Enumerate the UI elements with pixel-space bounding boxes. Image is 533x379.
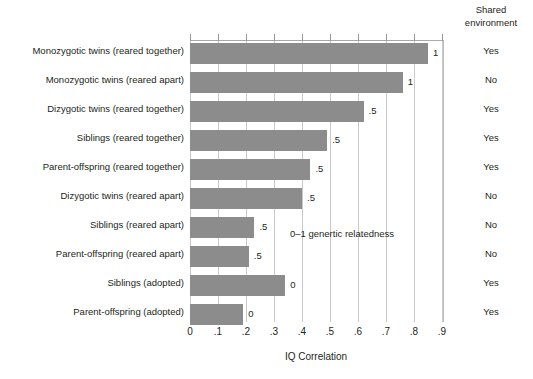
x-axis-tick-label: .6 — [343, 326, 373, 337]
bar-value-label: 1 — [433, 47, 438, 59]
plot-area: 0 .1 .2 .3 .4 .5 .6 .7 .8 .9 1 1 .5 .5 .… — [190, 41, 442, 322]
shared-environment-header-line2: environment — [452, 17, 530, 30]
x-axis-tick-label: .8 — [399, 326, 429, 337]
category-label: Siblings (adopted) — [4, 277, 190, 289]
axis-tick — [414, 34, 415, 41]
x-axis-tick-label: 0 — [175, 326, 205, 337]
x-axis-tick-label: .2 — [231, 326, 261, 337]
shared-environment-value: Yes — [452, 132, 530, 143]
bar-value-label: 1 — [408, 76, 413, 88]
shared-environment-divider — [443, 40, 444, 322]
shared-environment-header: Shared environment — [452, 4, 530, 29]
axis-tick — [302, 34, 303, 41]
bar — [190, 217, 254, 238]
axis-tick — [442, 34, 443, 41]
shared-environment-header-line1: Shared — [452, 4, 530, 17]
axis-tick — [358, 34, 359, 41]
x-axis-tick-label: .1 — [203, 326, 233, 337]
x-axis-tick-label: .9 — [427, 326, 457, 337]
category-label: Monozygotic twins (reared apart) — [4, 74, 190, 86]
shared-environment-value: No — [452, 74, 530, 85]
bar — [190, 43, 428, 64]
category-label: Siblings (reared apart) — [4, 219, 190, 231]
axis-tick — [246, 34, 247, 41]
iq-correlation-bar-chart: Shared environment Monozygotic twins (re… — [0, 0, 533, 379]
category-label-column: Monozygotic twins (reared together) Mono… — [0, 41, 190, 322]
x-axis-tick-label: .7 — [371, 326, 401, 337]
bar — [190, 246, 249, 267]
category-label: Parent-offspring (reared together) — [4, 161, 190, 173]
shared-environment-value: Yes — [452, 45, 530, 56]
shared-environment-value: Yes — [452, 277, 530, 288]
bar-value-label: .5 — [315, 163, 323, 175]
bar — [190, 275, 285, 296]
bar-value-label: .5 — [307, 192, 315, 204]
axis-tick — [274, 34, 275, 41]
bar — [190, 101, 364, 122]
shared-environment-value: No — [452, 248, 530, 259]
category-label: Siblings (reared together) — [4, 132, 190, 144]
x-axis-title: IQ Correlation — [190, 351, 442, 362]
shared-environment-value: No — [452, 219, 530, 230]
category-label: Monozygotic twins (reared together) — [4, 45, 190, 57]
bar — [190, 188, 302, 209]
axis-tick — [386, 34, 387, 41]
genetic-relatedness-annotation: 0–1 genertic relatedness — [290, 228, 394, 239]
x-axis-tick-label: .5 — [315, 326, 345, 337]
axis-tick — [330, 34, 331, 41]
gridline — [414, 41, 415, 322]
x-axis-tick-label: .4 — [287, 326, 317, 337]
axis-tick — [218, 34, 219, 41]
category-label: Dizygotic twins (reared apart) — [4, 190, 190, 202]
axis-tick — [190, 34, 191, 41]
gridline — [442, 41, 443, 322]
bar-value-label: 0 — [290, 279, 295, 291]
bar-value-label: .5 — [332, 134, 340, 146]
category-label: Dizygotic twins (reared together) — [4, 103, 190, 115]
shared-environment-value: No — [452, 190, 530, 201]
bar — [190, 130, 327, 151]
bar — [190, 72, 403, 93]
bar — [190, 159, 310, 180]
shared-environment-value: Yes — [452, 161, 530, 172]
category-label: Parent-offspring (reared apart) — [4, 248, 190, 260]
shared-environment-value: Yes — [452, 306, 530, 317]
shared-environment-value: Yes — [452, 103, 530, 114]
bar — [190, 304, 243, 325]
bar-value-label: 0 — [248, 308, 253, 320]
x-axis-tick-label: .3 — [259, 326, 289, 337]
category-label: Parent-offspring (adopted) — [4, 306, 190, 318]
bar-value-label: .5 — [254, 250, 262, 262]
bar-value-label: .5 — [369, 105, 377, 117]
bar-value-label: .5 — [259, 221, 267, 233]
